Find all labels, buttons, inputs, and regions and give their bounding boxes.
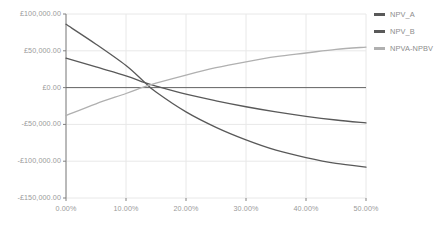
legend-label-npva-npbv: NPVA-NPBV (390, 44, 433, 53)
legend-label-npv-a: NPV_A (390, 10, 415, 19)
legend-swatch-npv-a (374, 13, 385, 16)
series-line-0 (66, 24, 366, 167)
axis-lines (66, 14, 366, 198)
x-tick-label: 10.00% (100, 204, 152, 213)
x-tick-label: 40.00% (280, 204, 332, 213)
legend-item-npv-b[interactable]: NPV_B (374, 23, 442, 40)
series-lines (66, 24, 366, 167)
series-line-2 (66, 47, 366, 115)
grid-lines (66, 14, 366, 198)
y-tick-label: £50,000.00 (24, 46, 61, 55)
x-tick-label: 20.00% (160, 204, 212, 213)
y-tick-label: -£100,000.00 (17, 156, 61, 165)
legend-swatch-npv-b (374, 30, 385, 33)
chart-legend: NPV_A NPV_B NPVA-NPBV (374, 6, 442, 57)
x-tick-label: 0.00% (40, 204, 92, 213)
x-tick-label: 50.00% (340, 204, 392, 213)
legend-label-npv-b: NPV_B (390, 27, 415, 36)
y-tick-label: -£50,000.00 (22, 119, 61, 128)
legend-swatch-npva-npbv (374, 47, 385, 50)
y-tick-label: -£150,000.00 (17, 193, 61, 202)
tick-marks (63, 14, 366, 201)
legend-item-npva-npbv[interactable]: NPVA-NPBV (374, 40, 442, 57)
legend-item-npv-a[interactable]: NPV_A (374, 6, 442, 23)
chart-container: £100,000.00£50,000.00£0.00-£50,000.00-£1… (0, 0, 443, 233)
y-tick-label: £100,000.00 (20, 9, 61, 18)
x-tick-label: 30.00% (220, 204, 272, 213)
y-tick-label: £0.00 (43, 83, 62, 92)
